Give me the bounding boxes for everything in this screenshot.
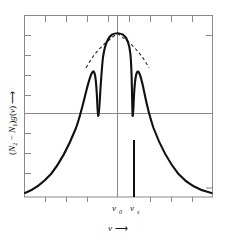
frame-rect xyxy=(25,16,213,198)
x-ticks-bottom xyxy=(46,197,193,202)
x-ticks-top xyxy=(46,16,193,23)
x-axis-label: ν ⟶ xyxy=(108,223,128,233)
tick-label-nu-zero: ν 0 xyxy=(112,203,123,215)
y-label-minus: − xyxy=(7,133,17,143)
tick-label-nu-zero-main: ν xyxy=(112,203,116,213)
tick-label-nu-s-main: ν xyxy=(130,203,134,213)
tick-label-nu-s-sub: s xyxy=(137,208,140,215)
x-axis-label-text: ν xyxy=(108,223,113,233)
plot-frame xyxy=(25,16,213,198)
figure-container: ν 0 ν s ν ⟶ (N2 − N1)g(ν) ⟶ xyxy=(0,0,227,240)
y-axis-label-arrow: ⟶ xyxy=(7,91,17,104)
curve-left-wing-into-hole xyxy=(25,71,98,193)
curve-right-wing-out-of-hole xyxy=(133,72,212,193)
y-ticks-left xyxy=(25,36,32,174)
tick-label-nu-zero-sub: 0 xyxy=(119,208,123,215)
plot-canvas: ν 0 ν s ν ⟶ (N2 − N1)g(ν) ⟶ xyxy=(0,0,227,240)
y-axis-label: (N2 − N1)g(ν) ⟶ xyxy=(7,91,18,155)
y-axis-label-text: (N2 − N1)g(ν) ⟶ xyxy=(7,91,18,155)
dashed-envelope-right xyxy=(118,34,150,68)
curve-central-peak xyxy=(98,33,132,115)
x-axis-label-arrow: ⟶ xyxy=(115,223,128,233)
y-ticks-right xyxy=(206,36,213,189)
tick-label-nu-s: ν s xyxy=(130,203,140,215)
